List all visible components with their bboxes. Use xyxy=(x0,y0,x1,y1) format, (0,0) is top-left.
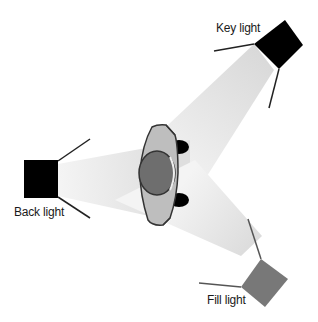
fill-light-box xyxy=(241,259,288,307)
three-point-lighting-diagram xyxy=(0,0,318,322)
fill-light-barndoor-left xyxy=(199,283,241,287)
back-light-box xyxy=(24,160,58,198)
fill-light-label: Fill light xyxy=(207,293,246,307)
back-light-label: Back light xyxy=(14,205,64,219)
key-light-label: Key light xyxy=(216,21,260,35)
back-light-barndoor-top xyxy=(58,139,90,161)
